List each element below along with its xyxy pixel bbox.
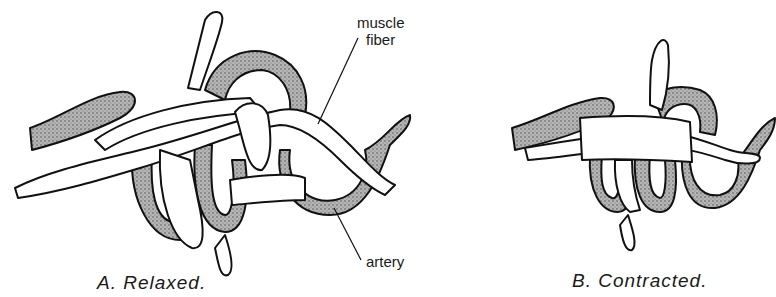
muscle-fiber-block-b	[580, 116, 692, 162]
caption-relaxed: A. Relaxed.	[97, 272, 206, 294]
muscle-fiber-bottom-twist-b	[620, 215, 635, 250]
muscle-fiber-leader-line	[318, 38, 358, 124]
artery-leader-line	[334, 208, 361, 260]
muscle-fiber-bottom-twist	[215, 235, 231, 275]
muscle-fiber-label-line1: muscle	[357, 14, 405, 31]
panel-a-relaxed-illustration	[15, 12, 410, 275]
muscle-fiber-label-line2: fiber	[366, 31, 395, 48]
artery-label: artery	[366, 253, 404, 270]
artery-loop-right-b	[682, 118, 775, 208]
caption-contracted: B. Contracted.	[572, 270, 707, 292]
panel-b-contracted-illustration	[512, 40, 775, 250]
muscle-fiber-cross	[230, 175, 305, 205]
artery-loop-2-b	[635, 155, 676, 212]
